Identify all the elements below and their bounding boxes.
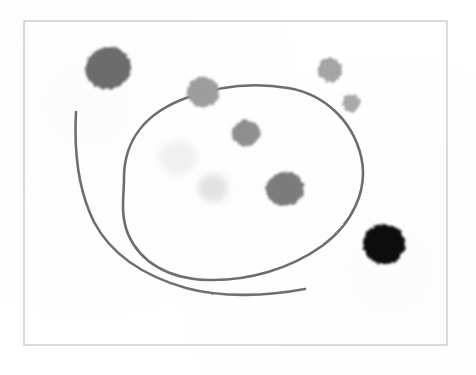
paper-background [0, 0, 476, 375]
artwork-svg [0, 0, 476, 375]
drawing-canvas: A scanned sheet with a thin gray rectang… [0, 0, 476, 375]
blob-right-small-gray-shape [342, 94, 360, 112]
blob-upper-right-gray [318, 58, 342, 82]
blob-upper-right-gray-shape [318, 58, 342, 82]
blob-right-small-gray [342, 94, 360, 112]
